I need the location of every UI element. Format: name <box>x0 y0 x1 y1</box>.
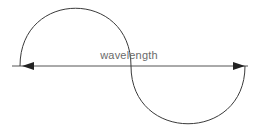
wavelength-label: wavelength <box>99 49 159 61</box>
left-arrowhead-icon <box>22 62 34 70</box>
lower-arc <box>131 66 245 124</box>
right-arrowhead-icon <box>233 62 245 70</box>
wavelength-diagram <box>0 0 259 131</box>
